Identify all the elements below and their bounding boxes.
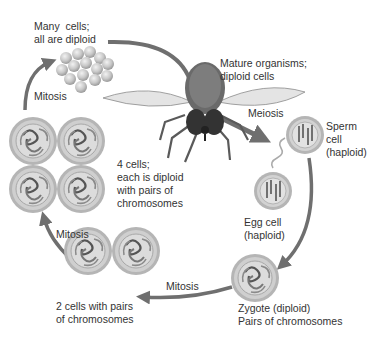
label-zygote: Zygote (diploid) Pairs of chromosomes [238, 302, 342, 328]
label-many-cells: Many cells; all are diploid [34, 20, 96, 46]
sperm-cell [272, 116, 324, 168]
many-cells-cluster [56, 46, 114, 93]
label-four-cells: 4 cells; each is diploid with pairs of c… [117, 158, 184, 210]
label-meiosis: Meiosis [248, 107, 284, 120]
arrow-fertilization [282, 158, 311, 265]
arrow-growth [108, 42, 190, 80]
label-egg-cell: Egg cell (haploid) [244, 216, 285, 242]
egg-cell [254, 172, 292, 210]
label-mitosis-left: Mitosis [56, 228, 89, 241]
four-cells [9, 117, 105, 213]
label-mitosis-bottom: Mitosis [166, 280, 199, 293]
life-cycle-diagram: Many cells; all are diploid Mature organ… [0, 0, 380, 337]
label-mitosis-top: Mitosis [34, 90, 67, 103]
zygote-cell [231, 254, 279, 302]
label-sperm-cell: Sperm cell (haploid) [326, 120, 367, 159]
label-two-cells: 2 cells with pairs of chromosomes [56, 300, 134, 326]
label-mature-organisms: Mature organisms; diploid cells [220, 57, 307, 83]
